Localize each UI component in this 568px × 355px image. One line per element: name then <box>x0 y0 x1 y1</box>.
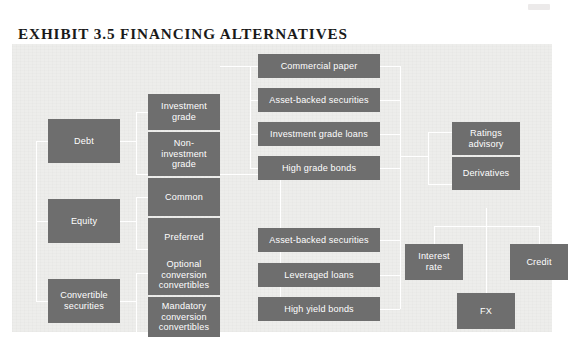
node-asset-backed-securities-top-label: Asset-backed securities <box>269 95 368 106</box>
connector-root-to-debt <box>36 141 48 142</box>
node-mandatory-conversion-label-line2: conversion <box>161 312 206 323</box>
node-asset-backed-securities-bottom-label: Asset-backed securities <box>269 235 368 246</box>
connector-services-split <box>428 132 429 184</box>
node-convertible-securities-label-line1: Convertible <box>60 290 108 301</box>
node-derivatives-label: Derivatives <box>463 168 510 179</box>
node-convertible-securities-label-line2: securities <box>64 301 104 312</box>
node-non-investment-grade[interactable]: Non- investment grade <box>148 132 220 176</box>
connector-commercial-paper-right <box>380 66 400 67</box>
node-mandatory-conversion-label-line1: Mandatory <box>162 301 206 312</box>
node-optional-conversion-label-line3: convertibles <box>159 280 209 291</box>
node-commercial-paper[interactable]: Commercial paper <box>258 54 380 78</box>
connector-services-to-derivatives <box>428 184 452 185</box>
node-equity-label: Equity <box>71 216 97 227</box>
exhibit-title: EXHIBIT 3.5 FINANCING ALTERNATIVES <box>18 25 348 43</box>
connector-debt-to-non-investment-grade <box>136 174 148 175</box>
node-high-grade-bonds-label: High grade bonds <box>282 163 356 174</box>
node-interest-rate-label-line1: Interest <box>418 251 450 262</box>
node-optional-conversion-convertibles[interactable]: Optional conversion convertibles <box>148 255 220 295</box>
node-convertible-securities[interactable]: Convertible securities <box>48 279 120 323</box>
connector-debt-out <box>120 141 136 142</box>
scan-artifact <box>528 4 550 10</box>
node-high-grade-bonds[interactable]: High grade bonds <box>258 156 380 180</box>
connector-equity-to-preferred <box>136 249 148 250</box>
node-equity[interactable]: Equity <box>48 199 120 243</box>
connector-root-to-equity <box>36 221 48 222</box>
node-preferred-label: Preferred <box>164 232 203 243</box>
connector-equity-to-common <box>136 197 148 198</box>
connector-collector-rail <box>400 66 401 309</box>
connector-investment-grade-loans-right <box>380 134 400 135</box>
connector-trunk-to-asset-backed-top <box>250 100 258 101</box>
node-ratings-advisory[interactable]: Ratings advisory <box>452 122 520 155</box>
node-non-investment-grade-label-line1: Non- <box>174 138 194 149</box>
connector-trunk-to-high-grade-bonds <box>250 168 258 169</box>
connector-bus-to-credit <box>539 226 540 244</box>
node-asset-backed-securities-top[interactable]: Asset-backed securities <box>258 88 380 112</box>
node-non-investment-grade-label-line3: grade <box>172 159 196 170</box>
node-investment-grade-label-line2: grade <box>172 112 196 123</box>
node-commercial-paper-label: Commercial paper <box>281 61 358 72</box>
node-debt[interactable]: Debt <box>48 119 120 163</box>
connector-convertible-to-optional <box>136 273 148 274</box>
node-derivatives[interactable]: Derivatives <box>452 157 520 190</box>
connector-derivatives-down <box>486 208 487 226</box>
connector-rail-to-services <box>400 156 428 157</box>
node-investment-grade-loans[interactable]: Investment grade loans <box>258 122 380 146</box>
node-high-yield-bonds[interactable]: High yield bonds <box>258 297 380 321</box>
node-fx-label: FX <box>480 306 492 317</box>
connector-leveraged-loans-right <box>380 275 400 276</box>
connector-upper-instrument-trunk <box>250 66 251 168</box>
node-mandatory-conversion-convertibles[interactable]: Mandatory conversion convertibles <box>148 297 220 337</box>
connector-services-to-ratings-advisory <box>428 132 452 133</box>
node-investment-grade-label-line1: Investment <box>161 101 207 112</box>
node-asset-backed-securities-bottom[interactable]: Asset-backed securities <box>258 228 380 252</box>
connector-asset-backed-top-right <box>380 100 400 101</box>
node-credit-label: Credit <box>526 257 551 268</box>
connector-convertible-split <box>136 273 137 332</box>
connector-high-grade-bonds-right <box>380 168 400 169</box>
node-preferred[interactable]: Preferred <box>148 218 220 256</box>
node-optional-conversion-label-line1: Optional <box>166 259 201 270</box>
node-leveraged-loans[interactable]: Leveraged loans <box>258 263 380 287</box>
connector-investment-grade-out <box>220 66 250 67</box>
node-common[interactable]: Common <box>148 178 220 216</box>
node-credit[interactable]: Credit <box>510 244 568 280</box>
connector-bus-to-fx <box>486 226 487 293</box>
node-high-yield-bonds-label: High yield bonds <box>284 304 354 315</box>
node-investment-grade[interactable]: Investment grade <box>148 94 220 130</box>
node-non-investment-grade-label-line2: investment <box>161 149 206 160</box>
node-ratings-advisory-label-line1: Ratings <box>470 128 502 139</box>
node-interest-rate[interactable]: Interest rate <box>405 244 463 280</box>
node-mandatory-conversion-label-line3: convertibles <box>159 322 209 333</box>
connector-trunk-to-commercial-paper <box>250 66 258 67</box>
node-ratings-advisory-label-line2: advisory <box>468 139 503 150</box>
connector-convertible-to-mandatory <box>136 332 148 333</box>
connector-high-yield-bonds-right <box>380 309 400 310</box>
node-debt-label: Debt <box>74 136 94 147</box>
connector-root-to-convertible <box>36 301 48 302</box>
node-investment-grade-loans-label: Investment grade loans <box>270 129 368 140</box>
connector-debt-split <box>136 112 137 174</box>
node-leveraged-loans-label: Leveraged loans <box>284 270 354 281</box>
node-common-label: Common <box>165 192 203 203</box>
diagram-panel: Debt Equity Convertible securities Inves… <box>12 44 552 332</box>
connector-asset-backed-bottom-right <box>380 240 400 241</box>
node-fx[interactable]: FX <box>457 293 515 329</box>
connector-convertible-out <box>120 301 136 302</box>
connector-trunk-to-investment-grade-loans <box>250 134 258 135</box>
connector-debt-to-investment-grade <box>136 112 148 113</box>
connector-equity-split <box>136 197 137 249</box>
connector-equity-out <box>120 221 136 222</box>
node-interest-rate-label-line2: rate <box>426 262 442 273</box>
connector-bus-to-interest-rate <box>434 226 435 244</box>
node-optional-conversion-label-line2: conversion <box>161 270 206 281</box>
